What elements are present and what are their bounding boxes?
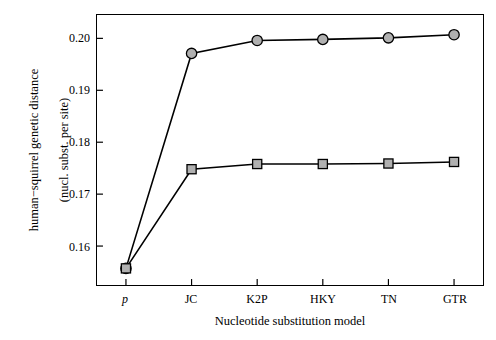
data-point-marker — [253, 159, 262, 168]
data-point-marker — [186, 48, 196, 58]
chart-container: human−squirrel genetic distance (nucl. s… — [0, 0, 496, 340]
plot-frame — [96, 14, 484, 286]
plot-area — [97, 15, 483, 285]
data-point-marker — [449, 30, 459, 40]
x-tick-label: HKY — [293, 292, 353, 307]
y-tick-label: 0.20 — [46, 30, 90, 45]
data-point-marker — [449, 157, 458, 166]
data-point-marker — [318, 159, 327, 168]
x-tick-label: TN — [359, 292, 419, 307]
data-point-marker — [318, 34, 328, 44]
y-tick-label: 0.17 — [46, 187, 90, 202]
data-point-marker — [383, 33, 393, 43]
data-point-marker — [187, 165, 196, 174]
x-tick-label: K2P — [227, 292, 287, 307]
y-tick-label: 0.18 — [46, 135, 90, 150]
x-tick-label: JC — [161, 292, 221, 307]
x-tick-label: p — [95, 292, 155, 307]
data-point-marker — [121, 264, 130, 273]
y-tick-label: 0.19 — [46, 82, 90, 97]
data-point-marker — [384, 159, 393, 168]
x-axis-label: Nucleotide substitution model — [96, 314, 484, 329]
y-axis-tick-labels: 0.160.170.180.190.20 — [40, 14, 90, 286]
data-point-marker — [252, 35, 262, 45]
y-tick-label: 0.16 — [46, 239, 90, 254]
x-tick-label: GTR — [425, 292, 485, 307]
series-line — [126, 35, 454, 269]
series-line — [126, 162, 454, 268]
